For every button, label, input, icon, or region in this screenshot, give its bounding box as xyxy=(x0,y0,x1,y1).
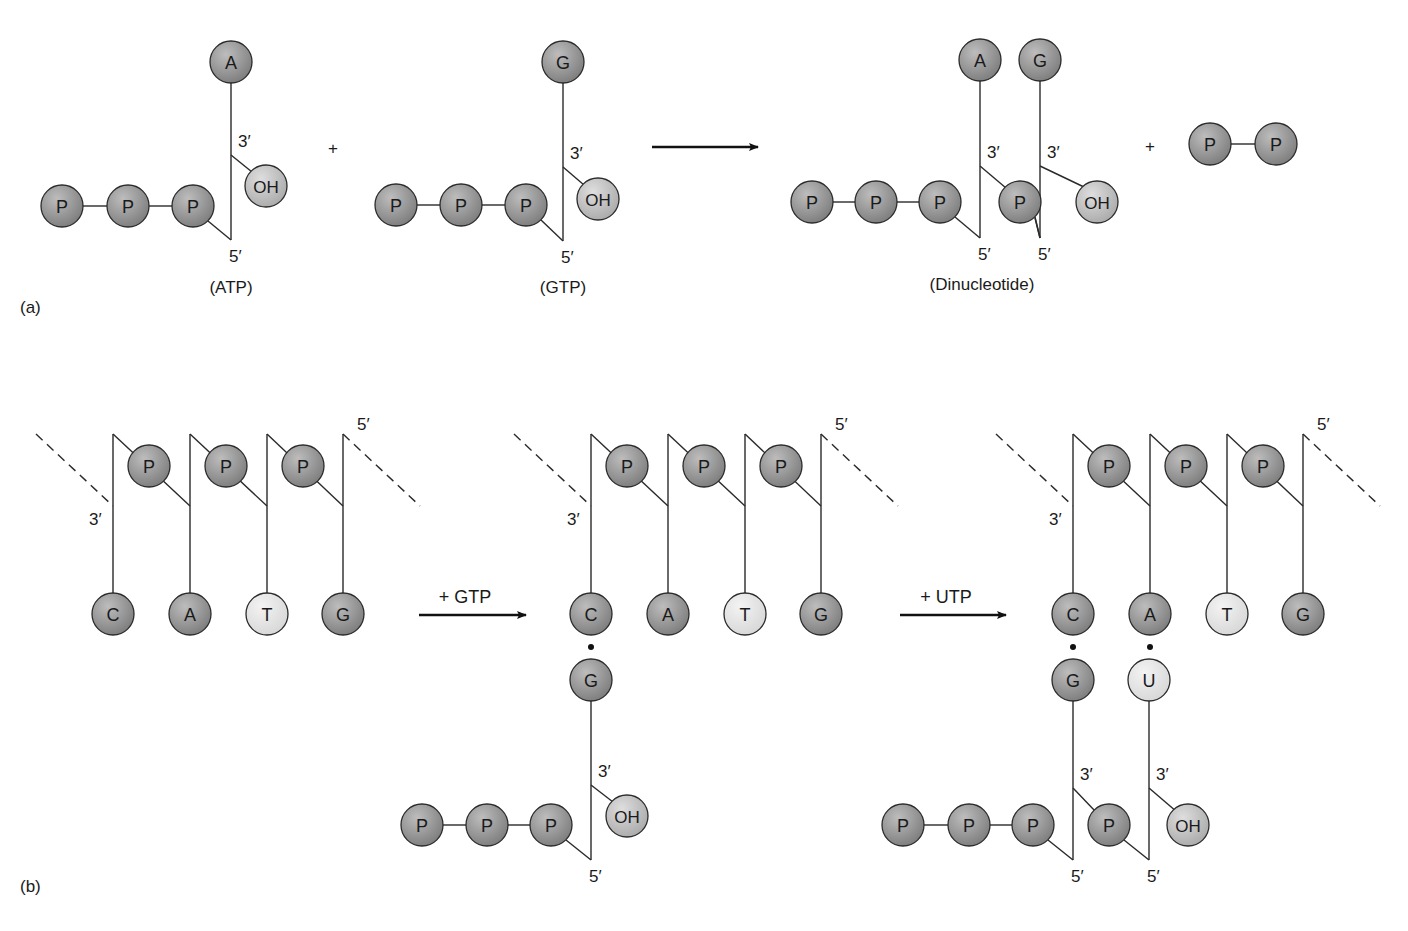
step1-gtp-hydroxyl: OH xyxy=(606,795,648,837)
atp-phosphate-2-text: P xyxy=(122,197,134,217)
step2-g-phosphate: P xyxy=(1088,804,1130,846)
template-step1-base-guanine-text: G xyxy=(814,605,828,625)
gtp-phosphate-2: P xyxy=(440,184,482,226)
step2-u-3prime-bond xyxy=(1149,788,1177,812)
gtp-hydroxyl-text: OH xyxy=(585,191,611,210)
dinuc-1-5prime-label: 5′ xyxy=(978,245,991,264)
step1-gtp-3prime-label: 3′ xyxy=(598,762,611,781)
gtp-3prime-label: 3′ xyxy=(570,144,583,163)
template-initial-dashed-3prime xyxy=(36,434,113,506)
template-step1-base-cytosine: C xyxy=(570,593,612,635)
dinuc-1-phosphate-2: P xyxy=(855,181,897,223)
template-initial-base-adenine-text: A xyxy=(184,605,196,625)
atp-phosphate-3-text: P xyxy=(187,197,199,217)
gtp-3prime-bond xyxy=(563,167,584,185)
step2-u-hydroxyl-text: OH xyxy=(1175,817,1201,836)
dinuc-1-phosphate-1-text: P xyxy=(806,193,818,213)
atp-phosphate-1-text: P xyxy=(56,197,68,217)
step2-g-3prime-bond xyxy=(1073,788,1095,811)
template-initial-phosphate-3-text: P xyxy=(297,457,309,477)
atp-base-adenine-text: A xyxy=(225,53,237,73)
template-step1-dashed-3prime xyxy=(514,434,591,506)
plus-sign-2: + xyxy=(1145,137,1155,156)
gtp-phosphate-3-text: P xyxy=(520,196,532,216)
template-step2-base-cytosine: C xyxy=(1052,593,1094,635)
template-step1-base-guanine: G xyxy=(800,593,842,635)
pyrophosphate-2: P xyxy=(1255,123,1297,165)
template-initial-base-adenine: A xyxy=(169,593,211,635)
dinuc-1-phosphate-text: P xyxy=(1014,193,1026,213)
step2-g-phosphate-1: P xyxy=(882,804,924,846)
template-step1-base-thymine-text: T xyxy=(740,605,751,625)
dinuc-1-base-adenine-text: A xyxy=(974,51,986,71)
dinuc-link-bond xyxy=(1035,217,1040,238)
base-pair-dot-1 xyxy=(588,644,594,650)
template-step2-phosphate-3: P xyxy=(1242,445,1284,487)
panel-a-label: (a) xyxy=(20,298,41,317)
atp-phosphate-2: P xyxy=(107,185,149,227)
step1-gtp-phosphate-1-text: P xyxy=(416,816,428,836)
step1-gtp-base-guanine: G xyxy=(570,659,612,701)
template-initial-3prime-label: 3′ xyxy=(89,510,102,529)
template-step1-base-adenine: A xyxy=(647,593,689,635)
template-step1-phosphate-2-text: P xyxy=(698,457,710,477)
template-step2-base-adenine-text: A xyxy=(1144,605,1156,625)
step2-u-3prime-label: 3′ xyxy=(1156,765,1169,784)
plus-sign-1: + xyxy=(328,139,338,158)
template-step2-base-adenine: A xyxy=(1129,593,1171,635)
step1-gtp-phosphate-3: P xyxy=(530,804,572,846)
base-pair-dot-2 xyxy=(1070,644,1076,650)
labels: 3′5′(ATP)+3′5′(GTP)3′5′3′5′(Dinucleotide… xyxy=(20,132,1330,896)
dinuc-2-5prime-label: 5′ xyxy=(1038,245,1051,264)
template-initial-base-guanine-text: G xyxy=(336,605,350,625)
step2-g-5prime-label: 5′ xyxy=(1071,867,1084,886)
template-step2-phosphate-3-text: P xyxy=(1257,457,1269,477)
step2-u-base-uracil: U xyxy=(1128,659,1170,701)
template-initial-dashed-5prime xyxy=(343,434,420,506)
template-step1-phosphate-2: P xyxy=(683,445,725,487)
step2-g-phosphate-3: P xyxy=(1012,804,1054,846)
template-step1-phosphate-3-text: P xyxy=(775,457,787,477)
dinuc-2-3prime-label: 3′ xyxy=(1047,143,1060,162)
template-step1-phosphate-3: P xyxy=(760,445,802,487)
template-initial-phosphate-3: P xyxy=(282,445,324,487)
atp-hydroxyl-text: OH xyxy=(253,178,279,197)
template-step2-base-thymine-text: T xyxy=(1222,605,1233,625)
dinuc-2-base-guanine: G xyxy=(1019,39,1061,81)
template-step1-base-cytosine-text: C xyxy=(585,605,598,625)
template-step2-dashed-3prime xyxy=(996,434,1073,506)
step1-gtp-hydroxyl-text: OH xyxy=(614,808,640,827)
gtp-base-guanine-text: G xyxy=(556,53,570,73)
dinuc-1-phosphate-1: P xyxy=(791,181,833,223)
rna-synthesis-diagram: APPPOHGPPPOHAPPPPGOHPPPPPCATGPPPCATGGPPP… xyxy=(0,0,1408,931)
template-initial-base-cytosine: C xyxy=(92,593,134,635)
gtp-phosphate-2-text: P xyxy=(455,196,467,216)
atp-phosphate-1: P xyxy=(41,185,83,227)
step2-g-phosphate-1-text: P xyxy=(897,816,909,836)
atp-caption: (ATP) xyxy=(209,278,252,297)
gtp-5prime-bond xyxy=(541,220,563,241)
step2-g-phosphate-text: P xyxy=(1103,816,1115,836)
step1-gtp-phosphate-1: P xyxy=(401,804,443,846)
gtp-hydroxyl: OH xyxy=(577,178,619,220)
template-step2-phosphate-1-text: P xyxy=(1103,457,1115,477)
pyrophosphate-2-text: P xyxy=(1270,135,1282,155)
template-initial-base-guanine: G xyxy=(322,593,364,635)
step1-gtp-3prime-bond xyxy=(591,785,613,802)
dinuc-2-base-guanine-text: G xyxy=(1033,51,1047,71)
dinucleotide-caption: (Dinucleotide) xyxy=(930,275,1035,294)
template-step2-phosphate-2-text: P xyxy=(1180,457,1192,477)
template-step1-base-adenine-text: A xyxy=(662,605,674,625)
step2-g-3prime-label: 3′ xyxy=(1080,765,1093,784)
template-step2-base-thymine: T xyxy=(1206,593,1248,635)
template-initial-base-cytosine-text: C xyxy=(107,605,120,625)
template-initial-base-thymine: T xyxy=(246,593,288,635)
atp-3prime-label: 3′ xyxy=(238,132,251,151)
arrow-label-gtp: + GTP xyxy=(439,587,492,607)
atp-5prime-label: 5′ xyxy=(229,247,242,266)
template-step2-3prime-label: 3′ xyxy=(1049,510,1062,529)
molecule-balls: APPPOHGPPPOHAPPPPGOHPPPPPCATGPPPCATGGPPP… xyxy=(41,39,1324,846)
step1-gtp-base-guanine-text: G xyxy=(584,671,598,691)
dinuc-1-phosphate: P xyxy=(999,181,1041,223)
template-step2-phosphate-2: P xyxy=(1165,445,1207,487)
